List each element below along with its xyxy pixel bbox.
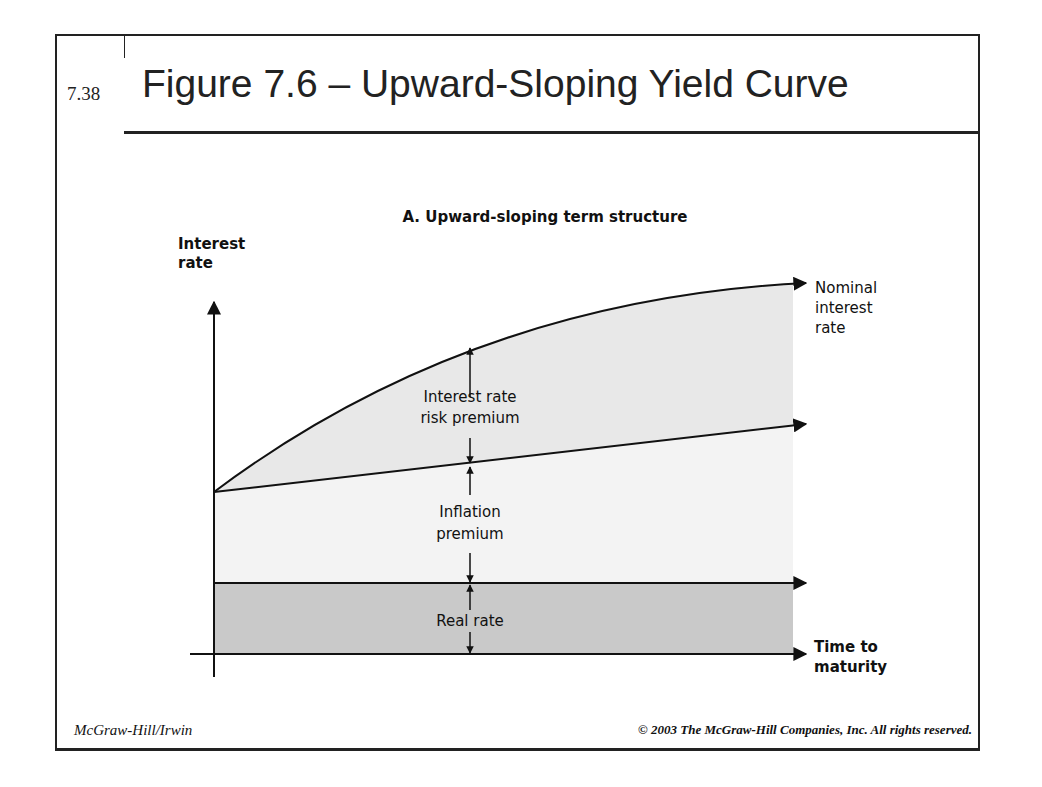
nominal-label-line3: rate (815, 319, 845, 337)
diagram-subtitle: A. Upward-sloping term structure (402, 208, 687, 226)
inflation-label-line1: Inflation (439, 503, 500, 521)
yield-curve-diagram: A. Upward-sloping term structure Interes… (0, 0, 1042, 787)
copyright-notice: © 2003 The McGraw-Hill Companies, Inc. A… (638, 722, 972, 738)
nominal-label-line2: interest (815, 299, 873, 317)
x-axis-label-line2: maturity (814, 658, 887, 676)
y-axis-label-line2: rate (178, 254, 213, 272)
real-rate-label: Real rate (436, 612, 504, 630)
risk-premium-label-line1: Interest rate (423, 388, 516, 406)
inflation-label-line2: premium (436, 525, 504, 543)
y-axis-label-line1: Interest (178, 235, 245, 253)
risk-premium-label-line2: risk premium (420, 409, 519, 427)
publisher-label: McGraw-Hill/Irwin (74, 722, 192, 739)
nominal-label-line1: Nominal (815, 279, 877, 297)
x-axis-label-line1: Time to (814, 638, 878, 656)
